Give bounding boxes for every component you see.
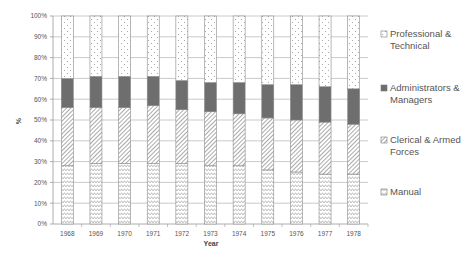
bar-segment [319,174,331,224]
y-axis-title: % [15,117,22,124]
bar-segment [61,16,73,78]
x-tick-label: 1977 [318,230,333,237]
bar-segment [176,16,188,80]
x-tick-label: 1971 [146,230,161,237]
bar-segment [90,16,102,76]
bar-segment [262,16,274,85]
bar-segment [176,80,188,109]
bar-segment [262,85,274,118]
legend-item: Manual [381,186,421,197]
legend-swatch-icon [381,137,387,143]
y-tick-label: 40% [34,137,47,144]
legend-label: Clerical & Armed [390,134,461,145]
y-tick-label: 90% [34,33,47,40]
bar-segment [205,112,217,166]
bar-segment [147,76,159,105]
y-tick-label: 20% [34,179,47,186]
bar-segment [205,83,217,112]
y-tick-label: 50% [34,116,47,123]
legend-label: Forces [390,146,419,157]
x-tick-label: 1968 [60,230,75,237]
legend-swatch-icon [381,85,387,91]
bar-1968 [61,16,73,224]
stacked-bar-chart: 0%10%20%30%40%50%60%70%80%90%100% 196819… [0,0,467,258]
bar-segment [119,108,131,164]
x-tick-label: 1978 [346,230,361,237]
legend-swatch-icon [381,189,387,195]
bar-segment [290,85,302,120]
bar-segment [61,78,73,107]
bar-segment [147,16,159,76]
legend-label: Professional & [390,28,452,39]
x-axis-title: Year [204,240,219,247]
legend-label: Managers [390,94,432,105]
y-tick-label: 30% [34,158,47,165]
bar-segment [119,164,131,224]
legend-label: Technical [390,40,430,51]
bar-segment [319,122,331,174]
x-tick-label: 1970 [117,230,132,237]
legend: Professional &TechnicalAdministrators &M… [381,28,461,197]
bar-1973 [205,16,217,224]
bar-segment [348,16,360,89]
legend-item: Clerical & ArmedForces [381,134,461,157]
bar-segment [205,16,217,83]
y-tick-label: 10% [34,200,47,207]
bar-1971 [147,16,159,224]
legend-item: Professional &Technical [381,28,452,51]
bar-1977 [319,16,331,224]
y-tick-label: 60% [34,96,47,103]
bar-1972 [176,16,188,224]
bar-segment [119,16,131,76]
bar-1969 [90,16,102,224]
legend-label: Administrators & [390,82,460,93]
bar-1975 [262,16,274,224]
legend-label: Manual [390,186,421,197]
bar-segment [348,124,360,174]
bar-1976 [290,16,302,224]
x-tick-label: 1972 [175,230,190,237]
bar-segment [147,164,159,224]
bar-segment [262,170,274,224]
x-tick-label: 1975 [261,230,276,237]
bar-segment [262,118,274,170]
y-axis-ticks: 0%10%20%30%40%50%60%70%80%90%100% [30,12,53,227]
bar-segment [290,172,302,224]
bar-segment [348,174,360,224]
bar-segment [290,120,302,172]
bar-segment [290,16,302,85]
bar-segment [233,83,245,114]
y-tick-label: 0% [38,220,48,227]
x-axis-ticks: 1968196919701971197219731974197519761977… [60,224,368,237]
y-tick-label: 100% [30,12,47,19]
bar-segment [147,105,159,163]
bar-segment [61,108,73,166]
bar-segment [176,164,188,224]
bar-segment [319,87,331,122]
legend-swatch-icon [381,31,387,37]
bar-segment [233,166,245,224]
bar-segment [176,110,188,164]
bar-segment [119,76,131,107]
bar-1974 [233,16,245,224]
x-tick-label: 1976 [289,230,304,237]
bar-segment [205,166,217,224]
bar-segment [61,166,73,224]
x-tick-label: 1973 [203,230,218,237]
bar-segment [90,164,102,224]
bar-segment [90,76,102,107]
x-tick-label: 1969 [89,230,104,237]
bar-1970 [119,16,131,224]
bar-1978 [348,16,360,224]
x-tick-label: 1974 [232,230,247,237]
bar-segment [319,16,331,87]
y-tick-label: 80% [34,54,47,61]
y-tick-label: 70% [34,75,47,82]
bar-segment [348,89,360,124]
bar-segment [233,114,245,166]
legend-item: Administrators &Managers [381,82,460,105]
bar-segment [90,108,102,164]
bar-segment [233,16,245,83]
